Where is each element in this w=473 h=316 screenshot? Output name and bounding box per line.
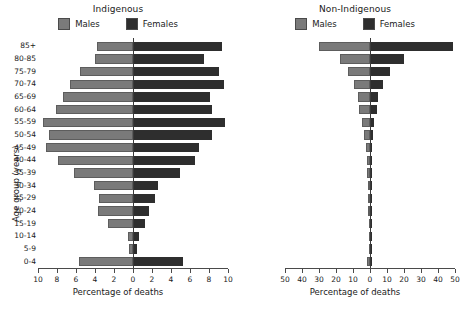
bar-male: [63, 92, 133, 101]
x-axis-tick-label: 10: [223, 275, 233, 284]
x-axis-tick: [133, 269, 134, 273]
bar-male: [46, 143, 133, 152]
legend-item-females: Females: [363, 18, 415, 30]
bar-female: [133, 130, 212, 139]
bar-male: [49, 130, 133, 139]
x-axis-tick: [353, 269, 354, 273]
x-axis-tick: [114, 269, 115, 273]
x-axis-tick-label: 6: [188, 275, 193, 284]
bar-female: [133, 194, 155, 203]
bar-male: [108, 219, 133, 228]
bar-female: [370, 80, 383, 89]
panel-title-non-indigenous: Non-Indigenous: [237, 4, 473, 14]
x-axis-tick-label: 30: [416, 275, 426, 284]
y-axis-tick-label: 55-59: [2, 118, 36, 126]
bar-female: [133, 156, 195, 165]
x-axis-tick-label: 6: [74, 275, 79, 284]
legend-swatch-males-icon: [58, 18, 70, 30]
bar-female: [133, 54, 204, 63]
x-axis-tick: [455, 269, 456, 273]
x-axis-tick-label: 10: [348, 275, 358, 284]
bar-female: [133, 80, 224, 89]
zero-axis-line: [133, 38, 134, 268]
legend-item-females: Females: [126, 18, 178, 30]
x-axis-tick: [95, 269, 96, 273]
x-axis-title-indigenous: Percentage of deaths: [0, 287, 236, 297]
x-axis-tick: [171, 269, 172, 273]
bar-female: [133, 67, 219, 76]
x-axis-tick: [57, 269, 58, 273]
bar-female: [133, 105, 212, 114]
x-axis-tick: [438, 269, 439, 273]
bar-female: [133, 206, 149, 215]
x-axis-tick: [228, 269, 229, 273]
bar-male: [58, 156, 133, 165]
y-axis-title-indigenous: Age group (years): [11, 145, 21, 222]
x-axis-tick-label: 0: [368, 275, 373, 284]
x-axis-tick-label: 4: [169, 275, 174, 284]
x-axis-tick-label: 50: [450, 275, 460, 284]
bar-male: [94, 181, 133, 190]
bar-male: [79, 257, 133, 266]
x-axis-tick: [209, 269, 210, 273]
x-axis-non-indigenous: 504030201001020304050: [285, 268, 455, 274]
legend-swatch-females-icon: [126, 18, 138, 30]
bar-male: [348, 67, 370, 76]
x-axis-tick: [285, 269, 286, 273]
bar-female: [370, 105, 377, 114]
x-axis-tick: [421, 269, 422, 273]
population-pyramid-figure: Indigenous Males Females 85+80-8575-7970…: [0, 0, 473, 316]
x-axis-tick: [336, 269, 337, 273]
y-axis-tick-label: 50-54: [2, 131, 36, 139]
bar-female: [133, 143, 199, 152]
legend-item-males: Males: [58, 18, 100, 30]
bar-male: [43, 118, 133, 127]
x-axis-tick: [38, 269, 39, 273]
panel-title-indigenous: Indigenous: [0, 4, 236, 14]
panel-indigenous: Indigenous Males Females 85+80-8575-7970…: [0, 0, 236, 316]
legend-label-males: Males: [75, 19, 100, 29]
x-axis-tick: [370, 269, 371, 273]
x-axis-tick-label: 50: [280, 275, 290, 284]
bar-female: [133, 42, 222, 51]
y-axis-tick-label: 0-4: [2, 258, 36, 266]
legend-swatch-males-icon: [295, 18, 307, 30]
x-axis-indigenous: 1086420246810: [38, 268, 228, 274]
bar-female: [133, 181, 158, 190]
x-axis-tick: [76, 269, 77, 273]
x-axis-tick: [404, 269, 405, 273]
bar-male: [80, 67, 133, 76]
x-axis-title-non-indigenous: Percentage of deaths: [237, 287, 473, 297]
x-axis-tick: [387, 269, 388, 273]
x-axis-tick-label: 40: [297, 275, 307, 284]
y-axis-tick-label: 75-79: [2, 68, 36, 76]
bar-male: [359, 105, 370, 114]
x-axis-tick-label: 10: [382, 275, 392, 284]
y-axis-tick-label: 70-74: [2, 80, 36, 88]
x-axis-tick: [152, 269, 153, 273]
bar-male: [95, 54, 133, 63]
bar-male: [319, 42, 370, 51]
bar-female: [133, 118, 225, 127]
bar-male: [56, 105, 133, 114]
legend-label-males: Males: [312, 19, 337, 29]
x-axis-tick-label: 20: [399, 275, 409, 284]
x-axis-tick-label: 30: [314, 275, 324, 284]
bar-male: [99, 194, 133, 203]
legend-indigenous: Males Females: [0, 18, 236, 30]
bar-female: [370, 67, 390, 76]
y-axis-tick-label: 60-64: [2, 106, 36, 114]
x-axis-tick-label: 0: [131, 275, 136, 284]
y-axis-tick-label: 85+: [2, 42, 36, 50]
bar-male: [358, 92, 370, 101]
x-axis-tick-label: 2: [150, 275, 155, 284]
bar-male: [98, 206, 133, 215]
bar-female: [370, 54, 404, 63]
plot-area-indigenous: [38, 40, 228, 268]
bar-female: [133, 219, 145, 228]
legend-item-males: Males: [295, 18, 337, 30]
bar-male: [74, 168, 133, 177]
x-axis-tick-label: 8: [207, 275, 212, 284]
bar-female: [370, 42, 453, 51]
bar-male: [362, 118, 370, 127]
